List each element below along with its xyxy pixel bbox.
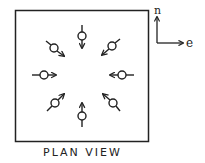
inward-arrow-symbol-south-east bbox=[103, 94, 120, 111]
inward-arrow-symbol-north-east bbox=[102, 39, 120, 55]
compass-axes bbox=[157, 17, 183, 43]
inward-arrow-symbol-west bbox=[32, 71, 56, 79]
plan-view-diagram: n e bbox=[0, 0, 205, 163]
inward-arrow-symbol-east bbox=[110, 71, 134, 79]
inward-arrow-symbol-north-west bbox=[46, 41, 64, 56]
inward-arrow-symbol-south-west bbox=[47, 94, 64, 111]
inward-arrow-symbol-north bbox=[78, 25, 86, 48]
inward-arrow-symbol-south bbox=[78, 103, 86, 127]
figure-caption: PLAN VIEW bbox=[0, 146, 165, 159]
east-label: e bbox=[186, 36, 193, 50]
north-label: n bbox=[154, 4, 161, 17]
